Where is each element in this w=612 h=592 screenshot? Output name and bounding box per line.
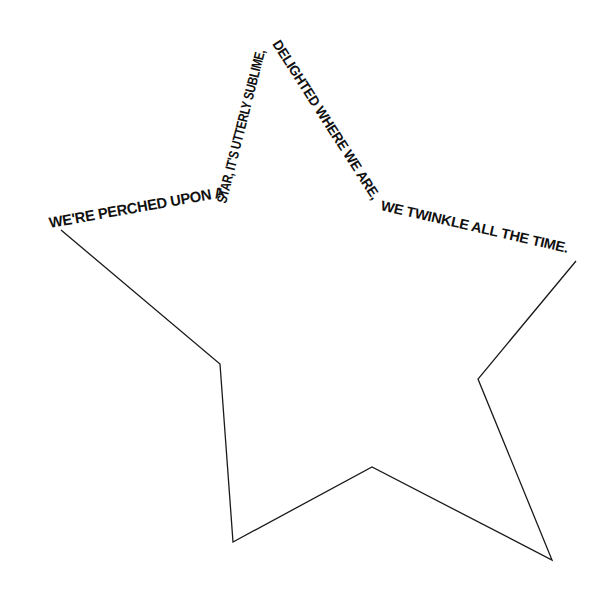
star-outline <box>61 230 576 560</box>
poem-line-4: WE TWINKLE ALL THE TIME. <box>379 197 570 255</box>
concrete-poem-canvas: WE'RE PERCHED UPON A STAR, IT'S UTTERLY … <box>0 0 612 592</box>
poem-line-3: DELIGHTED WHERE WE ARE, <box>269 37 383 202</box>
poem-line-2: STAR, IT'S UTTERLY SUBLIME, <box>213 48 268 205</box>
poem-line-1: WE'RE PERCHED UPON A <box>48 183 227 231</box>
